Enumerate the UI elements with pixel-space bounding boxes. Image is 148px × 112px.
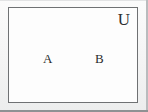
universal-set-label: U	[118, 11, 130, 28]
scan-edge-right	[146, 0, 148, 112]
set-label-a: A	[43, 52, 52, 65]
universal-set-rectangle: U A B	[8, 7, 138, 103]
scan-edge-top	[0, 0, 148, 1]
venn-diagram-figure: U A B	[0, 0, 148, 112]
set-circle-a	[9, 8, 78, 77]
set-label-b: B	[95, 52, 104, 65]
set-circle-b	[9, 77, 78, 112]
